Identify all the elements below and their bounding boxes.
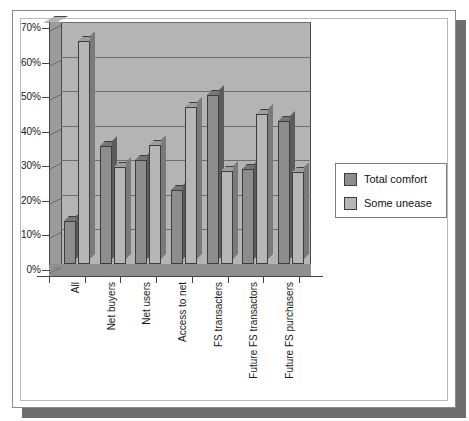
legend-item-total-comfort: Total comfort (344, 171, 427, 187)
legend-item-some-unease: Some unease (344, 195, 432, 211)
chart-legend: Total comfort Some unease (335, 163, 447, 218)
legend-label-some-unease: Some unease (364, 197, 432, 209)
legend-swatch-some-unease (344, 197, 357, 210)
legend-label-total-comfort: Total comfort (364, 173, 427, 185)
legend-swatch-total-comfort (344, 173, 357, 186)
